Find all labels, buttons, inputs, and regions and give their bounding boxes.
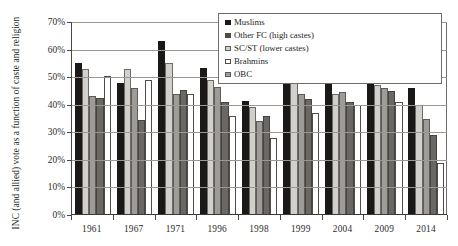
bar [145,80,152,215]
x-axis-tick-label: 1998 [249,224,269,234]
bar [131,88,138,215]
chart-legend: MuslimsOther FC (high castes)SC/ST (lowe… [218,13,442,84]
x-axis-tick-label: 1999 [291,224,311,234]
x-axis-tick-mark [447,215,448,220]
x-axis-tick-mark [196,215,197,220]
bar [283,72,290,215]
y-axis-title: INC (and allied) vote as a function of c… [0,0,34,246]
bar [270,138,277,215]
bar [138,120,145,215]
bar [395,102,402,215]
bar [75,63,82,215]
y-axis-tick-mark [67,132,72,133]
bar [124,69,131,215]
bar [200,68,207,216]
bar [298,94,305,215]
bar-group [114,22,156,215]
x-axis-tick-mark [155,215,156,220]
x-axis-tick-label: 1961 [82,224,102,234]
y-axis-tick-mark [67,22,72,23]
x-axis-tick-label: 2004 [333,224,353,234]
legend-swatch-icon [225,72,231,78]
bar [173,94,180,215]
x-axis-tick-label: 1971 [166,224,186,234]
gridline [72,105,447,106]
bar [346,102,353,215]
x-axis-tick-mark [280,215,281,220]
y-axis-tick-mark [67,160,72,161]
bar [249,107,256,215]
x-axis-tick-mark [405,215,406,220]
bar [256,121,263,215]
y-axis-tick-mark [67,105,72,106]
bar [332,94,339,215]
legend-swatch-icon [225,46,231,52]
legend-label: OBC [234,69,252,80]
gridline [72,187,447,188]
legend-item: Brahmins [225,56,325,67]
x-axis-tick-label: 2014 [416,224,436,234]
chart-figure: INC (and allied) vote as a function of c… [0,0,458,246]
legend-swatch-icon [225,59,231,65]
bar [165,63,172,215]
x-axis-tick-mark [113,215,114,220]
bar [339,92,346,215]
bar [187,94,194,215]
x-axis-tick-label: 2009 [375,224,395,234]
bar [388,91,395,215]
gridline [72,132,447,133]
bar [82,69,89,215]
legend-swatch-icon [225,20,231,26]
bar [263,116,270,215]
bar [104,76,111,215]
legend-item: SC/ST (lower castes) [225,43,337,54]
bar [96,98,103,215]
legend-swatch-icon [225,33,231,39]
bar [117,83,124,215]
x-axis-tick-label: 1967 [124,224,144,234]
bar [221,102,228,215]
legend-label: SC/ST (lower castes) [234,43,309,54]
x-axis-tick-label: 1996 [207,224,227,234]
x-axis-tick-mark [363,215,364,220]
legend-item: OBC [225,69,337,80]
legend-label: Muslims [234,17,265,28]
bar-group [72,22,114,215]
bar [437,163,444,215]
x-axis: 196119671971199619981999200420092014 [71,215,447,245]
x-axis-tick-mark [238,215,239,220]
bar [430,135,437,215]
bar [214,87,221,215]
bar [229,116,236,215]
y-axis-tick-mark [67,77,72,78]
legend-label: Other FC (high castes) [234,30,314,41]
bar [305,99,312,215]
legend-item: Muslims [225,17,337,28]
bar [158,41,165,215]
bar [180,90,187,215]
bar [312,113,319,215]
bar [89,96,96,215]
bar [242,101,249,215]
legend-label: Brahmins [234,56,268,67]
y-axis-tick-mark [67,187,72,188]
bar [367,83,374,215]
bar-group [155,22,197,215]
bar [381,88,388,215]
legend-item: Other FC (high castes) [225,30,325,41]
x-axis-tick-mark [71,215,72,220]
bar [408,88,415,215]
bar [325,79,332,215]
y-axis-tick-mark [67,50,72,51]
x-axis-tick-mark [322,215,323,220]
bar [207,80,214,215]
gridline [72,160,447,161]
bar [290,83,297,215]
